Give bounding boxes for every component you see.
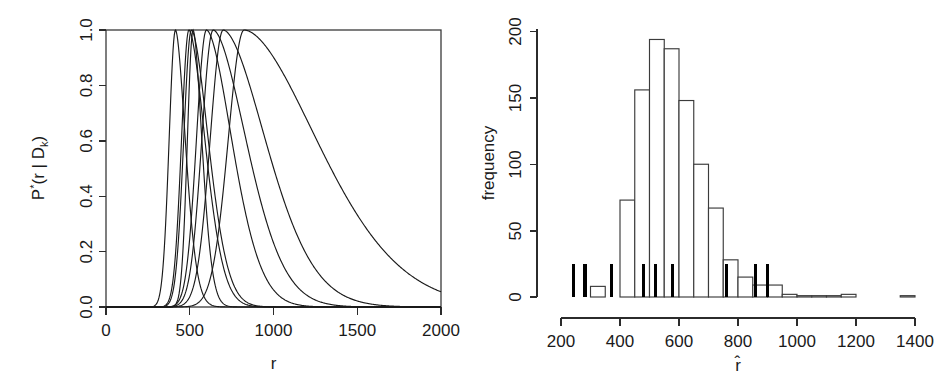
panel-posterior-curves: 0.0 0.2 0.4 0.6 0.8 1.0 0 500 1000 1500 … bbox=[0, 0, 470, 385]
histogram-bar bbox=[650, 39, 665, 297]
y-tick-label-5: 1.0 bbox=[77, 18, 96, 42]
x-axis-title: r̂ bbox=[734, 355, 741, 375]
posterior-curves-svg: 0.0 0.2 0.4 0.6 0.8 1.0 0 500 1000 1500 … bbox=[0, 0, 470, 385]
x-tick-label-4: 1000 bbox=[778, 332, 816, 351]
y-axis-ticks bbox=[530, 32, 537, 298]
x-tick-label-2: 600 bbox=[665, 332, 693, 351]
posterior-curve-layer bbox=[106, 30, 441, 307]
x-tick-label-5: 1200 bbox=[837, 332, 875, 351]
histogram-bar-layer bbox=[591, 39, 916, 297]
histogram-bar bbox=[620, 200, 635, 297]
x-tick-label-6: 1400 bbox=[896, 332, 934, 351]
histogram-bar bbox=[900, 296, 915, 297]
x-tick-label-4: 2000 bbox=[422, 321, 460, 340]
y-tick-label-1: 0.2 bbox=[77, 240, 96, 264]
y-tick-label-0: 0 bbox=[506, 292, 525, 301]
histogram-bar bbox=[591, 286, 606, 297]
histogram-bar bbox=[827, 296, 842, 297]
y-axis-title: frequency bbox=[479, 125, 498, 200]
y-axis-title-close: ) bbox=[29, 136, 48, 142]
histogram-bar bbox=[679, 101, 694, 297]
histogram-bar bbox=[782, 294, 797, 297]
y-tick-label-0: 0.0 bbox=[77, 295, 96, 319]
histogram-bar bbox=[694, 164, 709, 297]
x-tick-label-1: 400 bbox=[606, 332, 634, 351]
y-tick-label-3: 150 bbox=[506, 84, 525, 112]
x-tick-label-3: 800 bbox=[724, 332, 752, 351]
histogram-bar bbox=[797, 296, 812, 297]
posterior-curve bbox=[106, 30, 441, 307]
y-tick-label-1: 50 bbox=[506, 222, 525, 241]
x-tick-label-3: 1500 bbox=[338, 321, 376, 340]
svg-text:P*(r | Dk): P*(r | Dk) bbox=[28, 136, 50, 200]
histogram-bar bbox=[738, 277, 753, 297]
y-axis-title: P*(r | Dk) bbox=[28, 136, 50, 200]
histogram-bar bbox=[768, 285, 783, 297]
x-tick-label-2: 1000 bbox=[255, 321, 293, 340]
panel-bootstrap-histogram: 0 50 100 150 200 frequency 2004006008001… bbox=[470, 0, 940, 385]
y-axis-title-open: (r | D bbox=[29, 147, 48, 184]
y-tick-label-4: 0.8 bbox=[77, 74, 96, 98]
x-tick-label-0: 200 bbox=[547, 332, 575, 351]
y-tick-label-2: 0.4 bbox=[77, 184, 96, 208]
figure-container: 0.0 0.2 0.4 0.6 0.8 1.0 0 500 1000 1500 … bbox=[0, 0, 940, 385]
bootstrap-histogram-svg: 0 50 100 150 200 frequency 2004006008001… bbox=[470, 0, 940, 385]
x-axis-tick-labels: 200400600800100012001400 bbox=[547, 332, 934, 351]
x-tick-label-0: 0 bbox=[101, 321, 110, 340]
y-tick-label-4: 200 bbox=[506, 17, 525, 45]
histogram-bar bbox=[812, 296, 827, 297]
x-axis-title: r bbox=[271, 354, 277, 373]
y-axis-title-base: P bbox=[29, 189, 48, 200]
x-tick-label-1: 500 bbox=[176, 321, 204, 340]
y-tick-label-2: 100 bbox=[506, 150, 525, 178]
histogram-bar bbox=[664, 49, 679, 297]
histogram-bar bbox=[709, 208, 724, 297]
y-tick-label-3: 0.6 bbox=[77, 129, 96, 153]
x-axis-ticks bbox=[561, 318, 915, 326]
histogram-bar bbox=[841, 294, 856, 297]
x-axis-ticks bbox=[106, 307, 441, 315]
y-axis-ticks bbox=[99, 30, 106, 307]
